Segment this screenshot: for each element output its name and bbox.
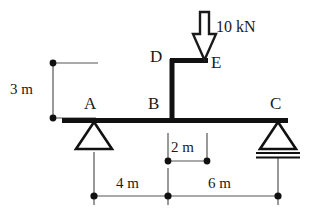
joint-label-E: E [211, 54, 221, 71]
dot-3m-bottom [50, 115, 57, 122]
joint-label-D: D [150, 48, 162, 65]
dot-base-C [274, 192, 281, 199]
joint-label-C: C [270, 95, 281, 112]
dot-2m-left [165, 158, 172, 165]
joint-label-B: B [148, 95, 159, 112]
roller-support-triangle [260, 122, 296, 149]
dimension-label-4m: 4 m [116, 176, 139, 191]
load-magnitude-label: 10 kN [216, 19, 256, 35]
roller-support-C [256, 122, 300, 158]
pin-support-A [76, 122, 112, 149]
dimension-label-2m: 2 m [171, 140, 194, 155]
dimension-label-3m: 3 m [10, 82, 33, 97]
dot-3m-top [50, 60, 57, 67]
dot-base-B [164, 192, 171, 199]
beam-diagram-canvas: 3 m A B C D E 10 kN 2 m 4 m 6 m [0, 0, 313, 215]
dimension-dots-group [50, 60, 282, 200]
dot-base-A [90, 192, 97, 199]
dot-2m-right [204, 158, 211, 165]
joint-label-A: A [84, 95, 96, 112]
pin-support-triangle [76, 122, 112, 149]
dimension-label-6m: 6 m [208, 176, 231, 191]
